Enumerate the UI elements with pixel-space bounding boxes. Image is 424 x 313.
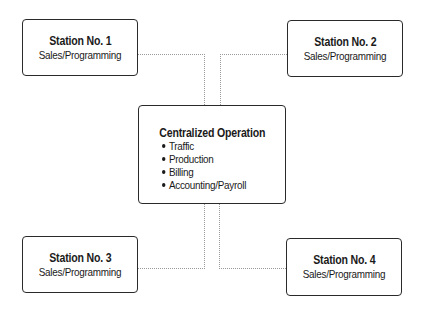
bullet-icon (162, 183, 165, 187)
connector-station2-horizontal (220, 54, 287, 55)
station-3-box: Station No. 3 Sales/Programming (22, 236, 138, 293)
connector-station1-horizontal (138, 54, 205, 55)
station-1-title: Station No. 1 (49, 34, 111, 48)
centralized-operation-list: Traffic Production Billing Accounting/Pa… (162, 140, 272, 192)
connector-station4-vertical (219, 204, 220, 269)
station-1-subtitle: Sales/Programming (39, 48, 121, 62)
centralized-operation-box: Centralized Operation Traffic Production… (138, 105, 286, 204)
bullet-icon (162, 170, 165, 174)
station-2-title: Station No. 2 (314, 35, 376, 49)
item-billing: Billing (169, 166, 194, 178)
station-2-subtitle: Sales/Programming (304, 49, 386, 63)
connector-station3-horizontal (138, 268, 205, 269)
item-accounting-payroll: Accounting/Payroll (169, 179, 246, 191)
station-1-box: Station No. 1 Sales/Programming (22, 19, 138, 76)
station-3-title: Station No. 3 (49, 251, 111, 265)
bullet-icon (162, 144, 165, 148)
item-traffic: Traffic (169, 140, 194, 152)
station-3-subtitle: Sales/Programming (39, 265, 121, 279)
station-4-box: Station No. 4 Sales/Programming (286, 238, 402, 296)
connector-station3-vertical (204, 204, 205, 269)
centralized-operation-title: Centralized Operation (159, 126, 265, 140)
connector-station2-vertical (220, 54, 221, 105)
list-item: Accounting/Payroll (162, 179, 257, 192)
bullet-icon (162, 157, 165, 161)
list-item: Traffic (162, 140, 257, 153)
connector-station1-vertical (204, 54, 205, 105)
station-2-box: Station No. 2 Sales/Programming (287, 20, 403, 77)
station-4-title: Station No. 4 (313, 253, 375, 267)
station-4-subtitle: Sales/Programming (303, 267, 385, 281)
connector-station4-horizontal (219, 268, 286, 269)
list-item: Production (162, 153, 257, 166)
item-production: Production (169, 153, 214, 165)
list-item: Billing (162, 166, 257, 179)
